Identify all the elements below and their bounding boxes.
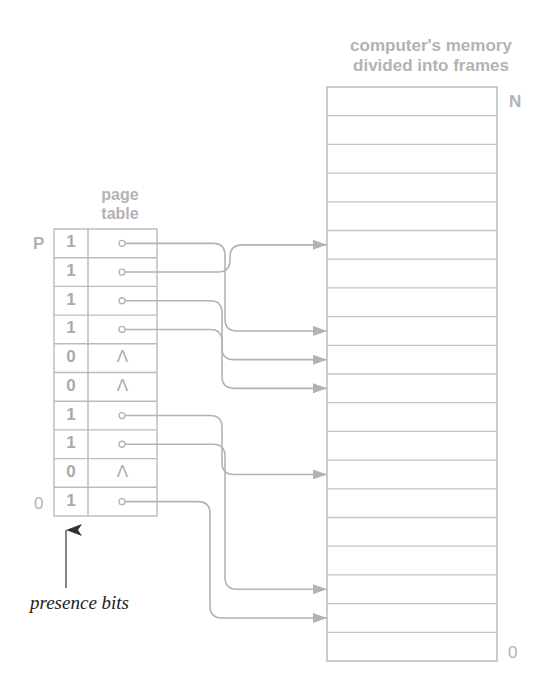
presence-bits-label: presence bits xyxy=(30,592,129,614)
pointer-dot-icon xyxy=(119,441,125,447)
presence-bit: 1 xyxy=(54,290,88,310)
memory-frames xyxy=(327,87,497,661)
pointer-dot-icon xyxy=(119,298,125,304)
presence-bit: 0 xyxy=(54,462,88,482)
null-pointer-symbol: Λ xyxy=(88,347,157,367)
null-pointer-symbol: Λ xyxy=(88,462,157,482)
presence-bit: 0 xyxy=(54,376,88,396)
pointer-dot-icon xyxy=(119,240,125,246)
presence-bit: 1 xyxy=(54,232,88,252)
presence-bit: 1 xyxy=(54,405,88,425)
pointer-dot-icon xyxy=(119,499,125,505)
presence-bit: 1 xyxy=(54,491,88,511)
presence-bit: 1 xyxy=(54,261,88,281)
pointer-arrow xyxy=(125,243,326,331)
presence-bit: 1 xyxy=(54,318,88,338)
pointer-dot-icon xyxy=(119,269,125,275)
null-pointer-symbol: Λ xyxy=(88,376,157,396)
pointer-arrows xyxy=(119,240,326,618)
presence-bit: 0 xyxy=(54,347,88,367)
presence-bit: 1 xyxy=(54,433,88,453)
pointer-dot-icon xyxy=(119,326,125,332)
pointer-dot-icon xyxy=(119,413,125,419)
